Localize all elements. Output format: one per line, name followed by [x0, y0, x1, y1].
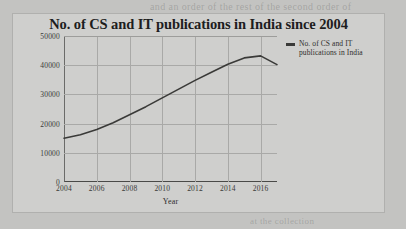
bleed-through-text: and an order of the rest of the second o… — [150, 1, 352, 12]
series-line-chart — [64, 36, 277, 182]
chart-card: No. of CS and IT publications in India s… — [12, 13, 385, 213]
plot-area-wrapper — [64, 36, 277, 182]
y-axis-tick-label: 20000 — [40, 119, 60, 128]
x-axis-tick-label: 2010 — [154, 184, 170, 193]
x-axis-tick-label: 2008 — [122, 184, 138, 193]
y-axis-tick-label: 30000 — [40, 90, 60, 99]
legend-line-swatch — [286, 43, 295, 46]
x-axis-tick-label: 2004 — [56, 184, 72, 193]
x-axis-tick-label: 2006 — [89, 184, 105, 193]
series-line-publications — [64, 56, 277, 138]
bleed-through-text: at the collection — [250, 216, 314, 226]
x-axis-tick-label: 2016 — [253, 184, 269, 193]
y-axis-tick-label: 50000 — [40, 32, 60, 41]
x-axis-tick-label: 2014 — [220, 184, 236, 193]
chart-legend: No. of CS and IT publications in India — [286, 40, 365, 57]
chart-title: No. of CS and IT publications in India s… — [13, 16, 384, 33]
x-axis-title: Year — [64, 197, 277, 206]
y-axis-tick-labels: 01000020000300004000050000 — [13, 36, 60, 182]
x-axis-tick-labels: 2004200620082010201220142016 — [64, 184, 277, 196]
legend-label: No. of CS and IT publications in India — [299, 40, 365, 57]
y-axis-tick-label: 10000 — [40, 148, 60, 157]
y-axis-tick-label: 40000 — [40, 61, 60, 70]
x-axis-tick-label: 2012 — [187, 184, 203, 193]
